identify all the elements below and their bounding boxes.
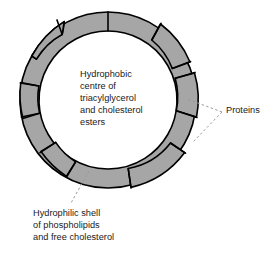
hydrophilic-shell-label: Hydrophilic shell of phospholipids and f…: [33, 207, 114, 243]
protein-lens-right: [175, 73, 198, 117]
proteins-label: Proteins: [226, 104, 260, 116]
hydrophobic-core-label: Hydrophobic centre of triacylglycerol an…: [80, 68, 143, 128]
figure-canvas: Hydrophobic centre of triacylglycerol an…: [0, 0, 275, 259]
protein-lens-left: [20, 83, 40, 119]
